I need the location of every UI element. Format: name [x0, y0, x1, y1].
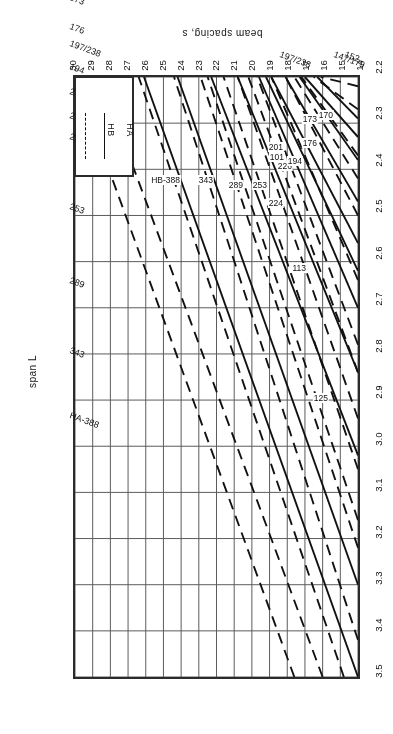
y-tick-3-4: 3.4 [374, 618, 385, 648]
y-tick-2-4: 2.4 [374, 153, 385, 183]
edge-label-176: 176 [68, 21, 86, 36]
edge-label-173: 173 [68, 0, 86, 7]
curve-ha-147-179 [294, 77, 358, 179]
x-tick-16: 16 [319, 59, 330, 73]
y-tick-2-3: 2.3 [374, 107, 385, 137]
x-tick-23: 23 [193, 59, 204, 73]
x-tick-27: 27 [121, 59, 132, 73]
x-tick-29: 29 [85, 59, 96, 73]
x-tick-20: 20 [247, 59, 258, 73]
curve-label-113: 113 [291, 263, 307, 273]
y-tick-2-8: 2.8 [374, 339, 385, 369]
edge-label-194: 194 [68, 61, 86, 76]
x-tick-21: 21 [229, 59, 240, 73]
legend-label-ha: HA [125, 123, 135, 136]
y-tick-3-1: 3.1 [374, 479, 385, 509]
x-tick-22: 22 [211, 59, 222, 73]
x-tick-25: 25 [157, 59, 168, 73]
y-axis-title: beam spacing, s [182, 28, 262, 39]
curve-label-170: 170 [318, 110, 334, 120]
curve-ha-140 [321, 77, 358, 86]
y-tick-3-5: 3.5 [374, 665, 385, 695]
curve-label-173: 173 [302, 114, 318, 124]
y-tick-2-7: 2.7 [374, 293, 385, 323]
legend: HA HB [74, 76, 134, 177]
curve-ha-289 [139, 77, 344, 677]
y-tick-3-3: 3.3 [374, 572, 385, 602]
x-tick-19: 19 [265, 59, 276, 73]
edge-label-197-238: 197/238 [68, 38, 102, 59]
curve-label-343: 343 [198, 175, 214, 185]
x-tick-24: 24 [175, 59, 186, 73]
legend-label-hb: HB [106, 123, 116, 136]
curve-ha-201 [224, 77, 358, 469]
chart-figure: HB-3883432892532242262011941761731701251… [0, 0, 393, 734]
curve-label-201: 201 [268, 142, 284, 152]
y-tick-2-5: 2.5 [374, 200, 385, 230]
y-tick-2-9: 2.9 [374, 386, 385, 416]
plot-area: HB-3883432892532242262011941761731701251… [73, 75, 360, 679]
y-tick-2-2: 2.2 [374, 61, 385, 91]
legend-swatch-hb-solid [104, 113, 105, 159]
legend-swatch-ha-dashed [85, 113, 86, 159]
curve-label-224: 224 [268, 198, 284, 208]
x-tick-26: 26 [139, 59, 150, 73]
curve-label-176: 176 [302, 138, 318, 148]
curve-label-289: 289 [228, 180, 244, 190]
curve-label-253: 253 [251, 180, 267, 190]
y-tick-3-2: 3.2 [374, 525, 385, 555]
curve-label-125: 125 [312, 393, 328, 403]
curve-label-hb-388: HB-388 [151, 175, 182, 185]
curve-label-194: 194 [287, 156, 303, 166]
x-tick-28: 28 [103, 59, 114, 73]
curve-label-101: 101 [269, 152, 285, 162]
y-tick-3-0: 3.0 [374, 432, 385, 462]
curve-hb-289 [211, 77, 358, 455]
x-axis-title: span L [27, 355, 38, 388]
y-tick-2-6: 2.6 [374, 246, 385, 276]
